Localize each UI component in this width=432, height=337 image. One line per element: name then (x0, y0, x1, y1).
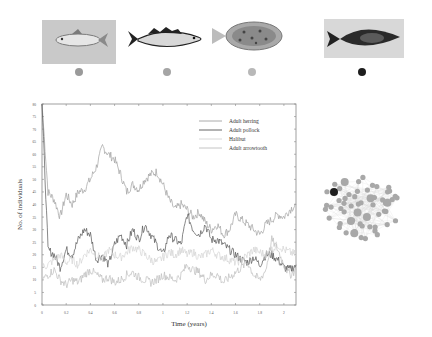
food-web-network (0, 0, 432, 337)
network-node (338, 206, 343, 211)
network-node (393, 218, 398, 223)
network-node (360, 175, 365, 180)
network-node (372, 195, 377, 200)
network-node (323, 207, 328, 212)
network-node (350, 218, 355, 223)
network-node (394, 195, 399, 200)
network-node (370, 183, 375, 188)
network-node (358, 221, 363, 226)
network-node (370, 202, 375, 207)
network-node (356, 179, 361, 184)
network-node (367, 224, 372, 229)
network-node (376, 212, 381, 217)
network-node (337, 186, 342, 191)
network-node (327, 215, 332, 220)
network-node (385, 222, 390, 227)
network-node (341, 178, 349, 186)
network-node (344, 230, 349, 235)
network-node (350, 229, 358, 237)
network-node (354, 209, 362, 217)
network-node (365, 187, 370, 192)
network-node (386, 185, 391, 190)
network-node-arrowtooth (330, 188, 338, 196)
network-node (358, 200, 363, 205)
network-node (328, 204, 333, 209)
network-node (332, 182, 337, 187)
network-node (342, 196, 347, 201)
network-node (355, 189, 360, 194)
network-node (383, 199, 391, 207)
network-node (336, 198, 341, 203)
network-node (359, 235, 364, 240)
network-node (337, 225, 342, 230)
network-node (341, 201, 346, 206)
network-node (352, 194, 357, 199)
network-node (383, 209, 388, 214)
network-node (346, 192, 351, 197)
network-node (373, 224, 378, 229)
network-node (363, 213, 371, 221)
network-node (324, 189, 329, 194)
network-node (349, 203, 354, 208)
